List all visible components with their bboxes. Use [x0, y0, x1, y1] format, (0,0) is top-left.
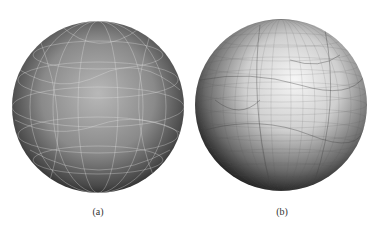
sphere-b-refined-mesh [195, 19, 367, 191]
figure-canvas [0, 0, 381, 233]
sphere-a-coarse-mesh [12, 21, 185, 193]
panel-a-label: (a) [78, 206, 118, 217]
panel-b-label: (b) [262, 206, 302, 217]
